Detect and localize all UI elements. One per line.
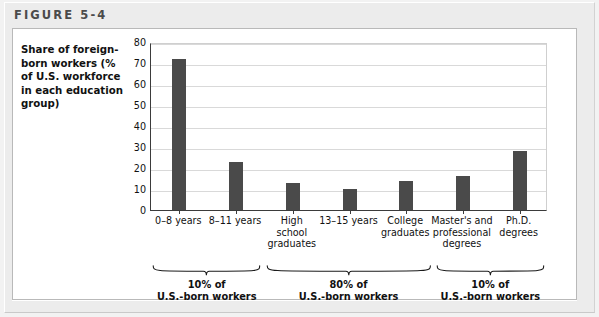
y-axis-tick-label: 20 — [134, 164, 146, 174]
plot-wrapper: 01020304050607080 0–8 years8–11 yearsHig… — [126, 43, 566, 293]
x-axis-tick — [293, 210, 294, 214]
bar — [343, 189, 357, 210]
y-axis-tick-label: 80 — [134, 38, 146, 48]
curly-brace-icon — [152, 265, 261, 276]
group-brackets: 10% ofU.S.-born workers80% ofU.S.-born w… — [150, 265, 547, 307]
x-axis-category-label-line: degrees — [427, 238, 498, 250]
y-axis-title: Share of foreign-born workers (% of U.S.… — [21, 43, 125, 111]
figure-header: FIGURE 5-4 — [14, 6, 107, 24]
y-axis-tick-label: 30 — [134, 143, 146, 153]
group-label-percent: 80% of — [266, 279, 432, 291]
bar — [456, 176, 470, 210]
y-axis-tick-labels: 01020304050607080 — [126, 43, 148, 218]
bar — [229, 162, 243, 210]
group-label-workers: U.S.-born workers — [436, 291, 545, 303]
bar — [286, 183, 300, 210]
group-label: 10% ofU.S.-born workers — [436, 279, 545, 303]
group-label-workers: U.S.-born workers — [152, 291, 261, 303]
x-axis-category-label-line: Ph.D. — [483, 215, 554, 227]
bars-layer — [151, 44, 546, 210]
x-axis-category-labels: 0–8 years8–11 yearsHighschoolgraduates13… — [150, 215, 547, 263]
x-axis-category-label: Ph.D.degrees — [483, 215, 554, 238]
x-axis-category-label-line: graduates — [256, 238, 327, 250]
y-axis-tick-label: 40 — [134, 122, 146, 132]
y-axis-tick-label: 70 — [134, 59, 146, 69]
group-label: 10% ofU.S.-born workers — [152, 279, 261, 303]
group-bracket-1: 10% ofU.S.-born workers — [152, 265, 261, 303]
x-axis-tick — [236, 210, 237, 214]
group-bracket-2: 80% ofU.S.-born workers — [266, 265, 432, 303]
x-axis-tick — [463, 210, 464, 214]
group-label-percent: 10% of — [152, 279, 261, 291]
curly-brace-icon — [436, 265, 545, 276]
group-label: 80% ofU.S.-born workers — [266, 279, 432, 303]
x-axis-category-label-line: degrees — [483, 227, 554, 239]
chart-panel: Share of foreign-born workers (% of U.S.… — [12, 28, 577, 300]
group-bracket-3: 10% ofU.S.-born workers — [436, 265, 545, 303]
x-axis-tick — [179, 210, 180, 214]
figure-label: FIGURE 5-4 — [14, 8, 107, 22]
x-axis-tick — [520, 210, 521, 214]
bar — [172, 59, 186, 210]
y-axis-tick-label: 10 — [134, 185, 146, 195]
y-axis-tick-label: 50 — [134, 101, 146, 111]
bar — [399, 181, 413, 210]
figure-root: FIGURE 5-4 Share of foreign-born workers… — [0, 0, 599, 317]
x-axis-tick — [350, 210, 351, 214]
group-label-workers: U.S.-born workers — [266, 291, 432, 303]
plot-area — [150, 43, 547, 211]
curly-brace-icon — [266, 265, 432, 276]
group-label-percent: 10% of — [436, 279, 545, 291]
x-axis-tick — [406, 210, 407, 214]
y-axis-tick-label: 60 — [134, 80, 146, 90]
x-axis-category-label-line: school — [256, 227, 327, 239]
bar — [513, 151, 527, 210]
